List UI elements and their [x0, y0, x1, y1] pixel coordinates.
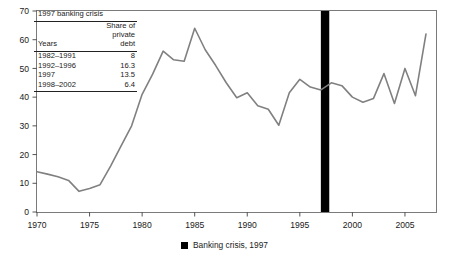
inset-row-value: 8 [113, 52, 135, 61]
inset-row-value: 13.5 [113, 71, 135, 80]
inset-table-row: 1982–19918 [34, 52, 137, 62]
legend-label: Banking crisis, 1997 [193, 240, 268, 250]
inset-column-header-lines: Share of private [34, 22, 137, 40]
legend-swatch-icon [181, 242, 188, 249]
chart-figure: 010203040506070 197019751980198519901995… [0, 0, 449, 263]
y-tick-label: 50 [19, 64, 29, 74]
banking-crisis-marker [321, 11, 329, 212]
inset-value-header: debt [120, 40, 135, 49]
x-tick-label: 1995 [290, 220, 309, 230]
inset-table-title: 1997 banking crisis [34, 9, 137, 20]
inset-row-years: 1982–1991 [38, 52, 76, 61]
y-tick-label: 20 [19, 150, 29, 160]
inset-rule-bottom [34, 91, 137, 92]
inset-row-value: 6.4 [113, 81, 135, 90]
inset-years-header: Years [38, 40, 57, 49]
inset-row-years: 1998–2002 [38, 81, 76, 90]
y-tick-label: 60 [19, 35, 29, 45]
x-axis-tick-labels: 19701975198019851990199520002005 [27, 220, 414, 230]
x-tick-label: 2005 [395, 220, 414, 230]
x-tick-label: 1970 [27, 220, 46, 230]
x-tick-label: 1980 [133, 220, 152, 230]
inset-table-row: 1998–20026.4 [34, 80, 137, 90]
y-axis-tick-labels: 010203040506070 [19, 6, 29, 217]
inset-table: 1997 banking crisis Share of private Yea… [34, 9, 137, 92]
inset-header-row: Years debt [34, 40, 137, 50]
inset-table-body: 1982–199181992–199616.3199713.51998–2002… [34, 52, 137, 90]
y-tick-label: 0 [24, 207, 29, 217]
chart-legend: Banking crisis, 1997 [0, 240, 449, 250]
banking-crisis-bar [321, 11, 329, 212]
x-tick-label: 1975 [80, 220, 99, 230]
x-tick-label: 1990 [238, 220, 257, 230]
inset-row-years: 1997 [38, 71, 55, 80]
y-tick-label: 70 [19, 6, 29, 16]
y-tick-label: 40 [19, 92, 29, 102]
y-tick-label: 30 [19, 121, 29, 131]
x-tick-label: 2000 [343, 220, 362, 230]
y-tick-label: 10 [19, 178, 29, 188]
x-tick-label: 1985 [185, 220, 204, 230]
